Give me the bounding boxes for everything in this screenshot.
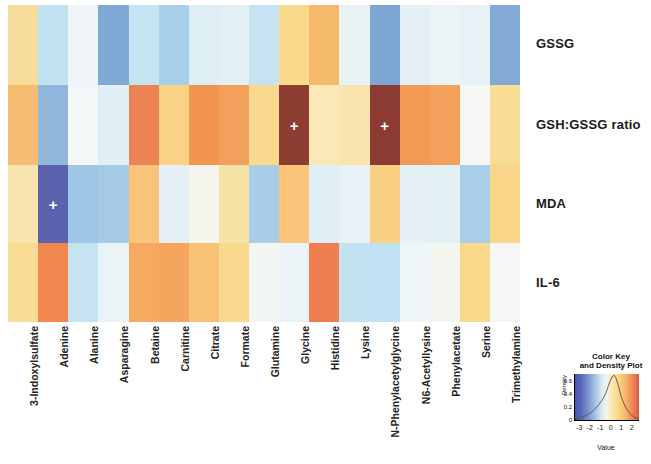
heatmap-cell: [219, 5, 249, 85]
color-key-xtick: -2: [587, 424, 593, 431]
color-key-xtick: 1: [619, 424, 623, 431]
heatmap-row: +: [8, 165, 520, 243]
heatmap-cell: [460, 85, 490, 165]
column-label-slot: Glutamine: [249, 324, 279, 442]
heatmap-cell: [68, 85, 98, 165]
heatmap-cell: [279, 165, 309, 243]
column-labels: 3-IndoxylsulfateAdenineAlanineAsparagine…: [8, 324, 520, 444]
significance-marker: +: [290, 118, 299, 133]
heatmap-row: [8, 243, 520, 322]
density-curve: [575, 374, 639, 420]
row-label-gssg: GSSG: [536, 36, 574, 51]
heatmap-cell: [490, 85, 520, 165]
row-label-mda: MDA: [536, 196, 566, 211]
heatmap-cell: [339, 243, 369, 322]
heatmap-cell: [219, 85, 249, 165]
heatmap-cell: [309, 165, 339, 243]
column-label-slot: Asparagine: [98, 324, 128, 442]
heatmap-grid: ++ +: [8, 5, 520, 322]
heatmap-cell: [339, 85, 369, 165]
heatmap-cell: [159, 5, 189, 85]
heatmap-cell: [129, 165, 159, 243]
color-key-xtick: 2: [630, 424, 634, 431]
heatmap-cell: [38, 243, 68, 322]
heatmap-cell: [38, 85, 68, 165]
color-key-title-line2: and Density Plot: [570, 361, 651, 370]
row-label-il6: IL-6: [536, 275, 560, 290]
heatmap-cell: [249, 243, 279, 322]
heatmap-cell: [309, 5, 339, 85]
column-label-slot: Adenine: [38, 324, 68, 442]
column-label-slot: Alanine: [68, 324, 98, 442]
heatmap-cell: [68, 243, 98, 322]
heatmap-cell: [98, 243, 128, 322]
column-label-slot: Carnitine: [159, 324, 189, 442]
heatmap-cell: [129, 85, 159, 165]
heatmap-cell: [279, 243, 309, 322]
color-key-gradient: -3-2-10120.60.40.20: [574, 374, 639, 421]
heatmap-cell: [490, 5, 520, 85]
column-label-slot: Trimethylamine: [490, 324, 520, 442]
heatmap-cell: [370, 243, 400, 322]
color-key-xtick: 0: [609, 424, 613, 431]
color-key-xtick: -3: [576, 424, 582, 431]
heatmap-cell: [189, 5, 219, 85]
heatmap-cell: [400, 85, 430, 165]
heatmap-cell: [430, 85, 460, 165]
column-label-slot: N6-Acetyllysine: [400, 324, 430, 442]
color-key-ytick: 0.6: [564, 378, 572, 384]
column-label-slot: Formate: [219, 324, 249, 442]
column-label-slot: Histidine: [309, 324, 339, 442]
heatmap-cell: [370, 5, 400, 85]
column-label: Trimethylamine: [510, 326, 522, 403]
heatmap-cell: [189, 165, 219, 243]
heatmap-cell: [400, 243, 430, 322]
heatmap-cell: [400, 165, 430, 243]
heatmap-cell: [460, 165, 490, 243]
heatmap-cell: [339, 5, 369, 85]
color-key-xtick: -1: [597, 424, 603, 431]
column-label-slot: Betaine: [128, 324, 158, 442]
heatmap-cell: [98, 5, 128, 85]
heatmap-row: [8, 5, 520, 85]
heatmap-cell: [8, 85, 38, 165]
column-label-slot: Citrate: [189, 324, 219, 442]
heatmap-cell: [8, 165, 38, 243]
heatmap-row: ++: [8, 85, 520, 165]
heatmap-cell: [159, 165, 189, 243]
significance-marker: +: [49, 197, 58, 212]
heatmap-cell: [219, 243, 249, 322]
heatmap-cell: [430, 165, 460, 243]
heatmap-cell: [129, 5, 159, 85]
column-label-slot: Lysine: [339, 324, 369, 442]
heatmap-cell: [8, 5, 38, 85]
heatmap-cell: [98, 85, 128, 165]
heatmap-cell: [339, 165, 369, 243]
heatmap-cell: [219, 165, 249, 243]
heatmap-cell: [370, 165, 400, 243]
heatmap-cell: +: [279, 85, 309, 165]
heatmap-cell: [490, 165, 520, 243]
heatmap-cell: [189, 85, 219, 165]
heatmap-cell: [249, 165, 279, 243]
color-key-and-density-plot: Color Key and Density Plot Density -3-2-…: [552, 352, 651, 460]
heatmap-cell: +: [38, 165, 68, 243]
heatmap-cell: [309, 243, 339, 322]
heatmap-cell: [249, 85, 279, 165]
significance-marker: +: [380, 118, 389, 133]
heatmap-cell: [400, 5, 430, 85]
color-key-xlabel: Value: [574, 444, 638, 451]
heatmap-cell: [189, 243, 219, 322]
heatmap-cell: [249, 5, 279, 85]
column-label-slot: Glycine: [279, 324, 309, 442]
heatmap-cell: [68, 165, 98, 243]
color-key-title: Color Key and Density Plot: [570, 352, 651, 370]
heatmap-cell: [38, 5, 68, 85]
heatmap-cell: [490, 243, 520, 322]
heatmap-cell: +: [370, 85, 400, 165]
column-label-slot: 3-Indoxylsulfate: [8, 324, 38, 442]
column-label-slot: Serine: [460, 324, 490, 442]
color-key-ytick: 0.4: [564, 391, 572, 397]
heatmap-cell: [430, 5, 460, 85]
color-key-ytick: 0: [569, 417, 572, 423]
